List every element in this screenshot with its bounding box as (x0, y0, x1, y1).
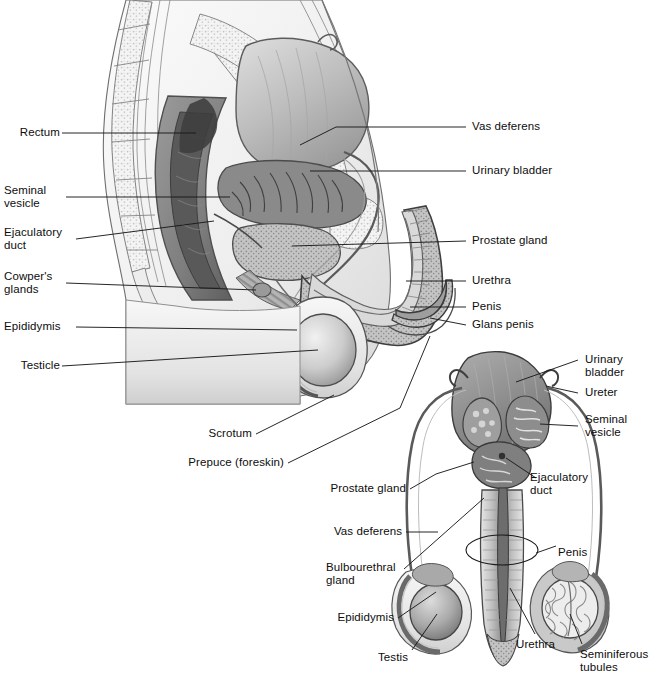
sagittal-panel-art (103, 0, 455, 404)
leader-penis-2 (536, 546, 556, 553)
label-sagittal-urethra: Urethra (472, 274, 572, 287)
label-sagittal-prostate-gland: Prostate gland (472, 234, 602, 247)
label-sagittal-epididymis: Epididymis (4, 320, 80, 333)
figure-canvas: Rectum Seminal vesicle Ejaculatory duct … (0, 0, 660, 686)
leader-prostate-2b (436, 462, 474, 474)
label-anterior-urethra: Urethra (516, 638, 576, 651)
label-sagittal-urinary-bladder: Urinary bladder (472, 164, 602, 177)
label-sagittal-prepuce: Prepuce (foreskin) (170, 456, 284, 469)
thigh-skin (126, 300, 300, 404)
label-anterior-bulbourethral-gland: Bulbourethral gland (326, 561, 404, 587)
leader-prostate-2 (410, 474, 436, 489)
label-sagittal-testicle: Testicle (0, 359, 60, 372)
label-sagittal-penis: Penis (472, 300, 572, 313)
leader-prepuce (288, 408, 400, 463)
label-sagittal-ejaculatory-duct: Ejaculatory duct (4, 226, 84, 252)
label-anterior-epididymis: Epididymis (330, 611, 394, 624)
label-anterior-vas-deferens: Vas deferens (330, 525, 402, 538)
label-sagittal-cowpers-glands: Cowper's glands (4, 270, 76, 296)
label-anterior-testis: Testis (368, 651, 408, 664)
label-anterior-seminiferous-tubules: Seminiferous tubules (580, 648, 660, 674)
anterior-panel-art (392, 352, 609, 666)
leader-prepuce-2 (400, 336, 430, 408)
label-sagittal-rectum: Rectum (0, 126, 60, 139)
label-anterior-prostate-gland: Prostate gland (324, 482, 406, 495)
testis-right-cap (552, 562, 588, 582)
label-sagittal-glans-penis: Glans penis (472, 318, 582, 331)
label-anterior-ureter: Ureter (585, 386, 655, 399)
label-sagittal-scrotum: Scrotum (160, 427, 252, 440)
label-anterior-urinary-bladder: Urinary bladder (585, 353, 660, 379)
label-sagittal-vas-deferens: Vas deferens (472, 120, 592, 133)
label-anterior-ejaculatory-duct: Ejaculatory duct (530, 471, 608, 497)
label-anterior-penis: Penis (558, 546, 618, 559)
label-anterior-seminal-vesicle: Seminal vesicle (585, 413, 657, 439)
label-sagittal-seminal-vesicle: Seminal vesicle (4, 184, 78, 210)
ejaculatory-duct-anterior (499, 453, 505, 459)
urinary-bladder-organ (236, 38, 369, 172)
